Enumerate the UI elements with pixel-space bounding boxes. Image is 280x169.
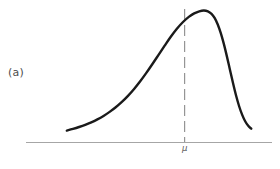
figure-panel-a: (a) μ: [0, 0, 280, 169]
panel-label: (a): [8, 66, 24, 80]
distribution-plot: [0, 0, 280, 169]
mean-tick-label: μ: [177, 143, 193, 153]
density-curve: [67, 11, 251, 131]
